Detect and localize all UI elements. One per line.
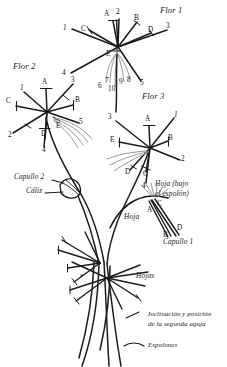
flor1-label-A: A <box>104 10 109 18</box>
flor2-label-2: 2 <box>8 131 12 139</box>
callout-hojas: Hojas <box>136 272 154 280</box>
capullo1-label-A: A <box>147 206 152 214</box>
flor1-label-3: 3 <box>166 22 170 30</box>
flor2-label-3: 3 <box>71 76 75 84</box>
flor2-label-B: B <box>75 96 80 104</box>
flor1-label-D: D <box>148 26 153 34</box>
flor3-label-3: 3 <box>108 113 112 121</box>
flor1-label-5: 5 <box>140 79 144 87</box>
legend-item-0-line1: Inclinación y posición <box>148 310 211 318</box>
legend-glyphs <box>124 312 144 346</box>
legend-item-1-line1: Espolones <box>148 341 177 349</box>
flor3-label-1: 1 <box>174 111 178 119</box>
flor1-stem <box>116 55 117 112</box>
flor2-stem <box>46 118 104 262</box>
capullo1-label-D: D <box>177 224 182 232</box>
flor3-label-D: D <box>125 168 130 176</box>
callout-hoja-bajo-espolon-line2: el espolón) <box>155 190 189 198</box>
legend-glyph-inclinacion <box>126 312 139 318</box>
flor2-label-4: 4 <box>42 146 46 154</box>
callout-caliz: Cáliz <box>26 187 42 195</box>
x-mark: x <box>80 271 83 278</box>
capullo1-label-C: C <box>157 200 162 208</box>
flor2-label-A: A <box>42 78 47 86</box>
flor1-label-1: 1 <box>63 24 67 32</box>
flor2-label-C: C <box>6 97 11 105</box>
capullo1-label-B: B <box>163 231 168 239</box>
flor1-label-8: 8 <box>127 76 131 84</box>
flor2-label-D: D <box>41 130 46 138</box>
flor3-label-C: C <box>143 170 148 178</box>
flor1-label-7: 7 <box>105 77 109 85</box>
legend-glyph-espolones <box>124 343 144 346</box>
flor1-label-E: E <box>106 50 111 58</box>
flor1-title: Flor 1 <box>160 6 182 16</box>
legend-item-0-line2: de la segunda aguja <box>148 320 206 328</box>
callout-capullo1: Capullo 1 <box>163 238 193 246</box>
flor3-label-4: 4 <box>142 182 146 190</box>
flor1-label-C: C <box>81 25 86 33</box>
flor1-label-2: 2 <box>116 8 120 16</box>
flor2-title: Flor 2 <box>13 62 35 72</box>
flor2-label-1: 1 <box>20 84 24 92</box>
figure-canvas: Flor 1 Flor 2 Flor 3 A B C D E 1 2 3 4 5… <box>0 0 227 367</box>
flor2-label-5: 5 <box>79 118 83 126</box>
lower-stem-cluster <box>79 262 121 366</box>
flor1-label-10: 10 <box>108 85 115 93</box>
flor3-label-E: E <box>110 136 115 144</box>
flor1-label-B: B <box>134 14 139 22</box>
flor1-label-9: 9 <box>119 78 123 86</box>
callout-hoja-bajo-espolon-line1: Hoja (bajo <box>155 180 188 188</box>
callout-capullo2: Capullo 2 <box>14 173 44 181</box>
flor1-label-6: 6 <box>98 82 102 90</box>
flor3-label-A: A <box>145 115 150 123</box>
callout-hoja: Hoja <box>124 213 139 221</box>
flor3-label-2: 2 <box>181 155 185 163</box>
flor3-title: Flor 3 <box>142 92 164 102</box>
flor3-label-B: B <box>168 134 173 142</box>
flor1-label-4: 4 <box>62 69 66 77</box>
flor2-label-E: E <box>56 122 61 130</box>
